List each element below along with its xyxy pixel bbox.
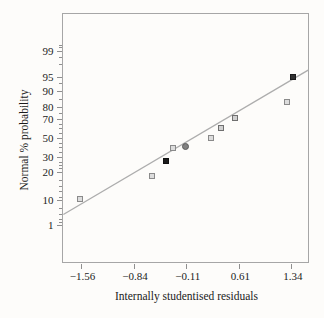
data-point-square-light (77, 196, 83, 202)
y-minor-tick (59, 133, 62, 134)
y-minor-tick (59, 214, 62, 215)
x-axis-title: Internally studentised residuals (63, 290, 310, 302)
y-axis-title: Normal % probability (18, 60, 34, 220)
x-tick-label: −0.11 (168, 270, 208, 283)
x-tick (291, 264, 292, 269)
y-minor-tick (59, 147, 62, 148)
y-minor-tick (59, 222, 62, 223)
y-major-tick (57, 107, 62, 108)
y-tick-label: 1 (28, 219, 54, 232)
y-minor-tick (59, 124, 62, 125)
y-major-tick (57, 138, 62, 139)
y-minor-tick (59, 180, 62, 181)
y-major-tick (57, 91, 62, 92)
y-minor-tick (59, 99, 62, 100)
y-minor-tick (59, 165, 62, 166)
y-major-tick (57, 119, 62, 120)
x-tick-label: 0.61 (220, 270, 260, 283)
y-minor-tick (59, 208, 62, 209)
data-point-square-light (284, 99, 290, 105)
data-point-square-darkest (290, 74, 296, 80)
x-tick (239, 264, 240, 269)
y-major-tick (57, 157, 62, 158)
y-major-tick (57, 77, 62, 78)
normal-probability-plot: 9995908070503020101−1.56−0.84−0.110.611.… (0, 0, 324, 318)
y-minor-tick (59, 168, 62, 169)
y-minor-tick (59, 47, 62, 48)
y-major-tick (57, 225, 62, 226)
y-minor-tick (59, 191, 62, 192)
y-minor-tick (59, 162, 62, 163)
y-major-tick (57, 200, 62, 201)
data-point-square-light (208, 135, 214, 141)
x-tick-label: 1.34 (273, 270, 313, 283)
y-minor-tick (59, 186, 62, 187)
data-point-square-black (163, 158, 169, 164)
y-major-tick (57, 172, 62, 173)
x-tick (186, 264, 187, 269)
y-minor-tick (59, 128, 62, 129)
y-minor-tick (59, 64, 62, 65)
y-tick-label: 99 (28, 45, 54, 58)
plot-area (62, 13, 309, 263)
data-point-square-medium (232, 115, 238, 121)
y-minor-tick (59, 219, 62, 220)
x-tick (81, 264, 82, 269)
y-minor-tick (59, 152, 62, 153)
data-point-square-light (170, 145, 176, 151)
x-tick (134, 264, 135, 269)
y-minor-tick (59, 57, 62, 58)
y-minor-tick (59, 113, 62, 114)
y-major-tick (57, 51, 62, 52)
data-point-square-light (149, 173, 155, 179)
y-minor-tick (59, 83, 62, 84)
y-minor-tick (59, 45, 62, 46)
y-minor-tick (59, 197, 62, 198)
y-minor-tick (59, 143, 62, 144)
x-tick-label: −1.56 (62, 270, 102, 283)
data-point-square-medium (218, 125, 224, 131)
x-tick-label: −0.84 (115, 270, 155, 283)
